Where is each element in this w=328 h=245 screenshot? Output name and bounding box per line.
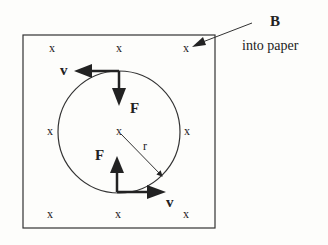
field-description: into paper (242, 38, 299, 53)
diagram-canvas: xxxxxxxxx B into paper v F F v r (0, 0, 328, 245)
force-arrow-top (112, 71, 126, 106)
force-arrow-bottom (110, 156, 124, 192)
field-marker-x: x (184, 124, 190, 138)
field-label: B (270, 13, 280, 29)
field-marker-x: x (47, 207, 53, 221)
field-marker-x: x (116, 41, 122, 55)
field-marker-x: x (183, 41, 189, 55)
velocity-label-top: v (60, 62, 68, 78)
field-marker-x: x (116, 124, 122, 138)
force-label-top: F (130, 100, 139, 116)
radius-label: r (143, 139, 147, 153)
field-marker-x: x (49, 41, 55, 55)
field-marker-x: x (183, 207, 189, 221)
velocity-label-bottom: v (166, 194, 174, 210)
field-marker-x: x (115, 207, 121, 221)
radius-line (121, 134, 162, 176)
force-label-bottom: F (95, 147, 104, 163)
field-marker-x: x (47, 124, 53, 138)
velocity-arrow-bottom (117, 185, 166, 199)
